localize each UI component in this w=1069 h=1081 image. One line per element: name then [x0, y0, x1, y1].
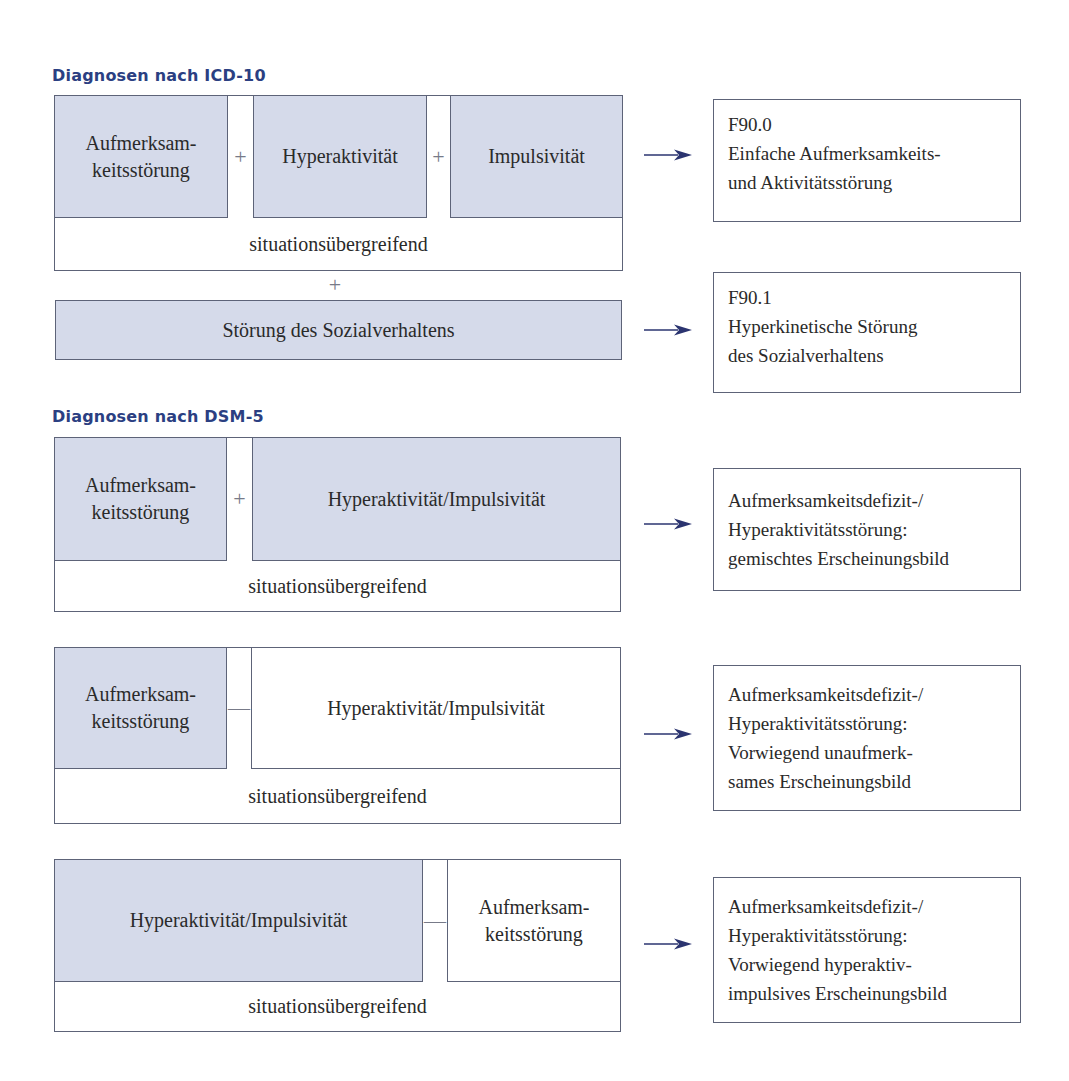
icd10-footer-label: situationsübergreifend [54, 218, 623, 271]
dsm5-symptom-attention: Aufmerksam- keitsstörung [54, 437, 227, 561]
symptom-label-line1: Aufmerksam- [478, 894, 589, 921]
result-line: des Sozialverhaltens [728, 341, 1006, 370]
symptom-label: Hyperaktivität [282, 143, 398, 170]
plus-operator: + [228, 95, 253, 218]
dsm5-result-combined: Aufmerksamkeitsdefizit-/ Hyperaktivitäts… [713, 468, 1021, 591]
symptom-label-line2: keitsstörung [478, 921, 589, 948]
minus-operator: — [423, 859, 447, 982]
plus-operator: + [427, 95, 450, 218]
result-code: F90.0 [728, 110, 1006, 139]
plus-operator: + [227, 437, 252, 561]
result-line: Hyperaktivitätsstörung: [728, 921, 1006, 950]
dsm5-symptom-hyperactivity-impulsivity-absent: Hyperaktivität/Impulsivität [251, 647, 621, 769]
result-code: F90.1 [728, 283, 1006, 312]
result-line: gemischtes Erscheinungsbild [728, 544, 1006, 573]
result-line: Aufmerksamkeitsdefizit-/ [728, 486, 1006, 515]
dsm5-symptom-attention-absent: Aufmerksam- keitsstörung [447, 859, 621, 982]
symptom-label: Impulsivität [488, 143, 585, 170]
symptom-label-line2: keitsstörung [85, 157, 196, 184]
dsm5-symptom-attention: Aufmerksam- keitsstörung [54, 647, 227, 769]
conduct-disorder-label: Störung des Sozialverhaltens [222, 317, 454, 344]
result-line: und Aktivitätsstörung [728, 168, 1006, 197]
symptom-label-line1: Aufmerksam- [85, 681, 196, 708]
dsm5-result-hyperactive: Aufmerksamkeitsdefizit-/ Hyperaktivitäts… [713, 877, 1021, 1023]
right-arrow-icon [644, 517, 694, 531]
icd10-conduct-disorder: Störung des Sozialverhaltens [55, 300, 622, 360]
right-arrow-icon [644, 148, 694, 162]
symptom-label-line1: Aufmerksam- [85, 130, 196, 157]
right-arrow-icon [644, 937, 694, 951]
icd10-symptom-attention: Aufmerksam- keitsstörung [54, 95, 228, 218]
result-line: Vorwiegend unaufmerk- [728, 738, 1006, 767]
icd10-heading: Diagnosen nach ICD-10 [52, 66, 266, 85]
result-line: Hyperaktivitätsstörung: [728, 515, 1006, 544]
result-line: Vorwiegend hyperaktiv- [728, 950, 1006, 979]
icd10-result-f90-1: F90.1 Hyperkinetische Störung des Sozial… [713, 272, 1021, 393]
symptom-label-line1: Aufmerksam- [85, 472, 196, 499]
dsm5-footer-label: situationsübergreifend [54, 768, 621, 824]
dsm5-footer-label: situationsübergreifend [54, 560, 621, 612]
result-line: sames Erscheinungsbild [728, 767, 1006, 796]
minus-operator: — [227, 647, 251, 769]
symptom-label-line2: keitsstörung [85, 708, 196, 735]
dsm5-symptom-hyperactivity-impulsivity: Hyperaktivität/Impulsivität [54, 859, 423, 982]
symptom-label: Hyperaktivität/Impulsivität [328, 486, 546, 513]
dsm5-footer-label: situationsübergreifend [54, 981, 621, 1032]
result-line: Aufmerksamkeitsdefizit-/ [728, 892, 1006, 921]
symptom-label: Hyperaktivität/Impulsivität [327, 695, 545, 722]
dsm5-result-inattentive: Aufmerksamkeitsdefizit-/ Hyperaktivitäts… [713, 665, 1021, 811]
symptom-label-line2: keitsstörung [85, 499, 196, 526]
symptom-label: Hyperaktivität/Impulsivität [130, 907, 348, 934]
dsm5-heading: Diagnosen nach DSM-5 [52, 407, 264, 426]
right-arrow-icon [644, 727, 694, 741]
icd10-symptom-impulsivity: Impulsivität [450, 95, 623, 218]
plus-operator: + [315, 272, 355, 298]
dsm5-symptom-hyperactivity-impulsivity: Hyperaktivität/Impulsivität [252, 437, 621, 561]
icd10-symptom-hyperactivity: Hyperaktivität [253, 95, 427, 218]
result-line: Hyperaktivitätsstörung: [728, 709, 1006, 738]
result-line: Aufmerksamkeitsdefizit-/ [728, 680, 1006, 709]
result-line: impulsives Erscheinungsbild [728, 979, 1006, 1008]
result-line: Einfache Aufmerksamkeits- [728, 139, 1006, 168]
icd10-result-f90-0: F90.0 Einfache Aufmerksamkeits- und Akti… [713, 99, 1021, 222]
result-line: Hyperkinetische Störung [728, 312, 1006, 341]
right-arrow-icon [644, 323, 694, 337]
